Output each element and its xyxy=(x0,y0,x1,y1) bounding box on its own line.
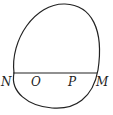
diagram-canvas: N O P M xyxy=(0,0,113,115)
point-label-n: N xyxy=(0,75,12,89)
closed-curve xyxy=(13,4,99,108)
point-label-m: M xyxy=(95,75,109,89)
point-label-o: O xyxy=(31,75,41,89)
point-label-p: P xyxy=(67,75,77,89)
